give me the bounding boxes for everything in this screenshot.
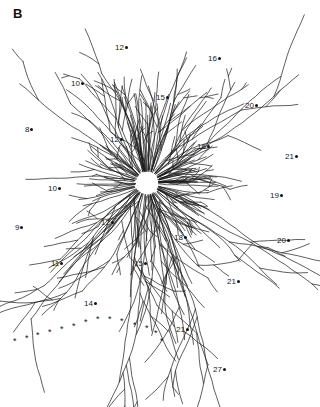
- site-label: 14: [84, 300, 97, 308]
- site-label: 21: [176, 326, 189, 334]
- site-label: 10: [71, 80, 84, 88]
- site-number: 12: [101, 218, 110, 227]
- site-number: 21: [285, 152, 294, 161]
- site-dot-icon: [125, 46, 128, 49]
- site-number: 21: [227, 277, 236, 286]
- site-number: 16: [208, 54, 217, 63]
- site-dot-icon: [166, 96, 169, 99]
- site-dot-icon: [218, 57, 221, 60]
- site-dot-icon: [186, 328, 189, 331]
- site-number: 12: [110, 135, 119, 144]
- site-dot-icon: [223, 368, 226, 371]
- site-dot-icon: [287, 239, 290, 242]
- site-number: 10: [48, 184, 57, 193]
- site-dot-icon: [280, 194, 283, 197]
- site-number: 16: [197, 142, 206, 151]
- asterisk-icon: *: [48, 328, 52, 337]
- site-dot-icon: [184, 236, 187, 239]
- site-number: 12: [115, 43, 124, 52]
- site-number: 11: [51, 259, 59, 268]
- site-number: 18: [174, 233, 183, 242]
- site-label: 10: [48, 185, 61, 193]
- site-number: 19: [270, 191, 279, 200]
- site-label: 12: [101, 219, 114, 227]
- asterisk-icon: *: [154, 329, 158, 338]
- site-dot-icon: [255, 104, 258, 107]
- asterisk-icon: *: [120, 317, 124, 326]
- site-label: 20: [277, 237, 290, 245]
- asterisk-icon: *: [13, 337, 17, 346]
- site-dot-icon: [30, 128, 33, 131]
- site-label: 15: [134, 260, 147, 268]
- site-number: 21: [176, 325, 185, 334]
- site-number: 20: [245, 101, 254, 110]
- site-dot-icon: [295, 155, 298, 158]
- site-number: 14: [84, 299, 93, 308]
- site-label: 16: [197, 143, 210, 151]
- site-dot-icon: [207, 145, 210, 148]
- asterisk-icon: *: [160, 337, 164, 346]
- site-number: 15: [156, 93, 165, 102]
- site-dot-icon: [237, 280, 240, 283]
- asterisk-icon: *: [36, 331, 40, 340]
- site-dot-icon: [94, 302, 97, 305]
- site-label: 11: [51, 260, 63, 268]
- asterisk-icon: *: [72, 322, 76, 331]
- site-number: 27: [213, 365, 222, 374]
- site-dot-icon: [81, 82, 84, 85]
- site-label: 8: [25, 126, 33, 134]
- asterisk-icon: *: [60, 325, 64, 334]
- site-label: 12: [115, 44, 128, 52]
- site-label: 21: [285, 153, 298, 161]
- asterisk-icon: *: [25, 334, 29, 343]
- site-number: 8: [25, 125, 29, 134]
- site-number: 15: [134, 259, 143, 268]
- site-label: 15: [156, 94, 169, 102]
- asterisk-icon: *: [108, 315, 112, 324]
- site-dot-icon: [144, 262, 147, 265]
- site-label: 9: [15, 224, 23, 232]
- asterisk-icon: *: [96, 315, 100, 324]
- site-dot-icon: [58, 187, 61, 190]
- asterisk-icon: *: [133, 321, 137, 330]
- asterisk-icon: *: [145, 324, 149, 333]
- site-number: 20: [277, 236, 286, 245]
- site-label: 18: [174, 234, 187, 242]
- site-label: 16: [208, 55, 221, 63]
- site-label: 20: [245, 102, 258, 110]
- site-dot-icon: [111, 221, 114, 224]
- site-number: 9: [15, 223, 19, 232]
- site-dot-icon: [20, 226, 23, 229]
- panel-letter: B: [13, 6, 22, 21]
- site-dot-icon: [60, 262, 63, 265]
- site-label: 21: [227, 278, 240, 286]
- soma: [136, 172, 158, 194]
- site-label: 12: [110, 136, 123, 144]
- site-label: 19: [270, 192, 283, 200]
- site-label: 27: [213, 366, 226, 374]
- neuron-figure: B 12161015208121621101912918201115211421…: [0, 0, 320, 407]
- site-number: 10: [71, 79, 80, 88]
- asterisk-icon: *: [84, 318, 88, 327]
- site-dot-icon: [120, 138, 123, 141]
